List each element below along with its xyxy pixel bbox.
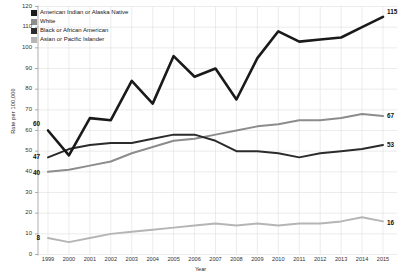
y-tick-label: 70 — [10, 106, 32, 112]
legend-swatch-asian — [31, 37, 37, 43]
y-tick-label: 60 — [10, 127, 32, 133]
legend-swatch-american-indian — [31, 10, 37, 16]
legend-label-black: Black or African American — [40, 26, 108, 35]
legend-item: Asian or Pacific Islander — [31, 35, 128, 44]
end-value-label-2: 53 — [387, 141, 394, 148]
end-value-label-3: 16 — [387, 219, 394, 226]
start-value-label-2: 47 — [24, 153, 40, 160]
end-value-label-1: 67 — [387, 112, 394, 119]
x-tick-label: 2015 — [370, 256, 396, 262]
legend-label-asian: Asian or Pacific Islander — [40, 35, 104, 44]
legend-item: White — [31, 17, 128, 26]
y-tick-label: 120 — [10, 3, 32, 9]
legend-item: Black or African American — [31, 26, 128, 35]
y-tick-label: 0 — [10, 251, 32, 257]
legend-label-white: White — [40, 17, 55, 26]
start-value-label-0: 60 — [24, 120, 40, 127]
y-tick-label: 20 — [10, 209, 32, 215]
y-tick-label: 110 — [10, 23, 32, 29]
start-value-label-1: 40 — [24, 169, 40, 176]
x-axis-title: Year — [0, 266, 401, 272]
start-value-label-3: 8 — [24, 234, 40, 241]
line-chart: American Indian or Alaska Native White B… — [0, 0, 401, 277]
y-tick-label: 50 — [10, 147, 32, 153]
y-tick-label: 100 — [10, 44, 32, 50]
legend-item: American Indian or Alaska Native — [31, 8, 128, 17]
end-value-label-0: 115 — [387, 8, 397, 15]
y-tick-label: 30 — [10, 189, 32, 195]
legend: American Indian or Alaska Native White B… — [31, 8, 128, 44]
y-tick-label: 90 — [10, 65, 32, 71]
legend-label-american-indian: American Indian or Alaska Native — [40, 8, 128, 17]
y-tick-label: 80 — [10, 85, 32, 91]
